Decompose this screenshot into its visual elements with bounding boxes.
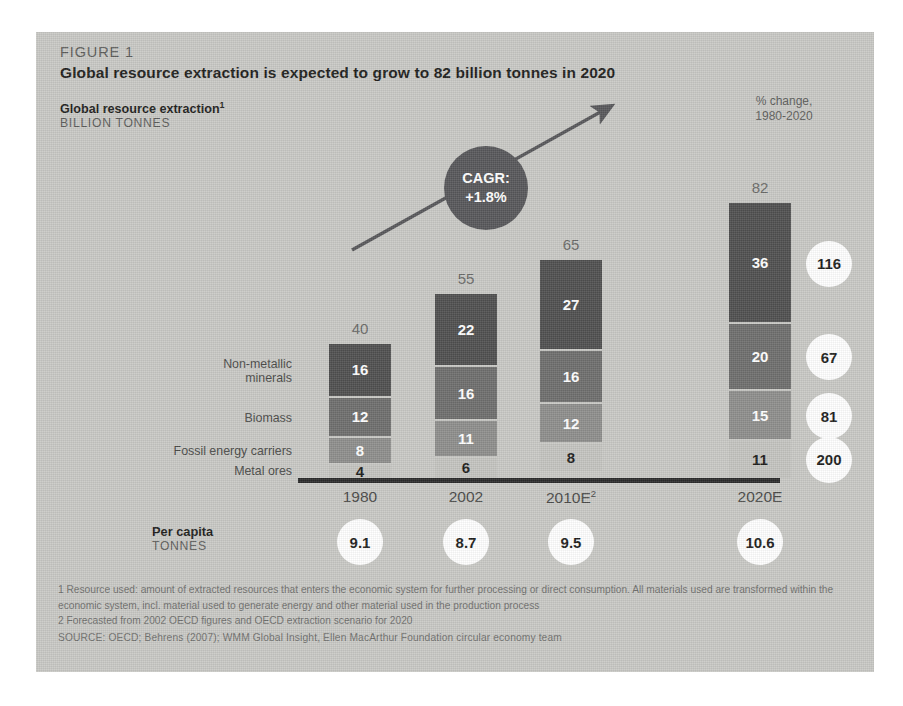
bar-segment-value: 8 — [356, 442, 364, 459]
bar-segment-value: 11 — [458, 430, 474, 447]
bar-segment: 16 — [329, 344, 391, 398]
per-capita-label: Per capita TONNES — [152, 524, 292, 553]
bar-segment: 8 — [540, 444, 602, 471]
bar-segment-value: 12 — [563, 415, 580, 432]
bar-segment-value: 16 — [563, 368, 580, 385]
x-axis-label-text: 2002 — [449, 488, 483, 505]
per-capita-units: TONNES — [152, 539, 292, 553]
bar-segment-value: 15 — [752, 407, 769, 424]
x-axis-label-text: 2010E — [546, 489, 591, 506]
pct-change-value: 200 — [816, 451, 841, 468]
x-axis-label-1980: 1980 — [310, 488, 410, 506]
x-axis-label-text: 2020E — [738, 488, 783, 505]
bar-column-2002: 2216116 — [435, 294, 497, 478]
per-capita-title: Per capita — [152, 524, 292, 539]
pct-change-circle: 67 — [806, 334, 852, 380]
bar-segment: 36 — [729, 203, 791, 324]
series-label-metal-ores: Metal ores — [96, 464, 292, 478]
bar-total-label: 55 — [435, 270, 497, 287]
series-label-line: minerals — [245, 371, 292, 385]
cagr-bubble: CAGR: +1.8% — [444, 146, 528, 230]
pct-change-value: 67 — [821, 349, 838, 366]
bar-segment: 22 — [435, 294, 497, 368]
x-axis-label-2002: 2002 — [416, 488, 516, 506]
series-legend-labels: Non-metallicmineralsBiomassFossil energy… — [92, 32, 292, 672]
bar-column-2010e: 2716128 — [540, 260, 602, 478]
pct-change-circle: 200 — [806, 437, 852, 483]
source-line: SOURCE: OECD; Behrens (2007); WMM Global… — [58, 632, 858, 643]
bar-total-label: 65 — [540, 236, 602, 253]
bar-segment-value: 20 — [752, 348, 769, 365]
series-label-fossil-energy-carriers: Fossil energy carriers — [96, 444, 292, 458]
series-label-biomass: Biomass — [96, 411, 292, 425]
per-capita-circle: 9.5 — [548, 519, 594, 565]
bar-segment-value: 16 — [458, 385, 475, 402]
bar-segment: 11 — [435, 421, 497, 458]
footnotes: 1 Resource used: amount of extracted res… — [58, 582, 858, 629]
bar-segment: 6 — [435, 458, 497, 478]
per-capita-circle: 8.7 — [443, 519, 489, 565]
figure-panel: FIGURE 1 Global resource extraction is e… — [36, 32, 874, 672]
bar-segment-value: 8 — [567, 449, 575, 466]
x-axis-label-footnote-marker: 2 — [591, 488, 596, 499]
cagr-value: +1.8% — [465, 188, 507, 207]
series-label-line: Metal ores — [234, 464, 292, 478]
bar-segment-value: 6 — [462, 459, 470, 476]
bar-segment: 27 — [540, 260, 602, 350]
bar-segment: 12 — [329, 398, 391, 438]
bar-segment: 15 — [729, 391, 791, 441]
bar-segment-value: 36 — [752, 254, 769, 271]
bar-segment: 4 — [329, 465, 391, 478]
bar-segment-value: 22 — [458, 321, 475, 338]
series-label-line: Biomass — [244, 411, 292, 425]
bar-column-1980: 161284 — [329, 344, 391, 478]
bar-segment: 20 — [729, 324, 791, 391]
per-capita-circle: 9.1 — [337, 519, 383, 565]
per-capita-value: 9.5 — [561, 534, 582, 551]
bar-total-label: 82 — [729, 179, 791, 196]
pct-change-circle: 81 — [806, 393, 852, 439]
figure-page: FIGURE 1 Global resource extraction is e… — [0, 0, 903, 706]
bar-segment: 16 — [540, 351, 602, 405]
per-capita-value: 8.7 — [456, 534, 477, 551]
pct-change-value: 81 — [821, 408, 838, 425]
plot-area: CAGR: +1.8% Non-metallicmineralsBiomassF… — [36, 32, 874, 672]
bar-segment: 11 — [729, 441, 791, 478]
bar-total-label: 40 — [329, 320, 391, 337]
footnote-2: 2 Forecasted from 2002 OECD figures and … — [58, 613, 858, 629]
cagr-label: CAGR: — [462, 169, 510, 188]
x-axis-label-2020e: 2020E — [710, 488, 810, 506]
bar-segment-value: 12 — [352, 408, 369, 425]
bar-column-2020e: 36201511 — [729, 203, 791, 478]
per-capita-value: 10.6 — [745, 534, 774, 551]
x-axis-label-text: 1980 — [343, 488, 377, 505]
bar-segment-value: 16 — [352, 361, 369, 378]
bar-segment: 12 — [540, 404, 602, 444]
bar-segment-value: 27 — [563, 296, 580, 313]
bar-segment-value: 11 — [752, 451, 768, 468]
x-axis-baseline — [298, 478, 780, 483]
series-label-line: Fossil energy carriers — [174, 444, 292, 458]
bar-segment: 16 — [435, 367, 497, 421]
series-label-non-metallic-minerals: Non-metallicminerals — [96, 357, 292, 385]
bar-segment: 8 — [329, 438, 391, 465]
pct-change-circle: 116 — [806, 241, 852, 287]
pct-change-value: 116 — [817, 255, 841, 272]
x-axis-label-2010e: 2010E2 — [521, 488, 621, 507]
per-capita-circle: 10.6 — [737, 519, 783, 565]
footnote-1: 1 Resource used: amount of extracted res… — [58, 582, 858, 613]
series-label-line: Non-metallic — [223, 357, 292, 371]
per-capita-value: 9.1 — [350, 534, 371, 551]
